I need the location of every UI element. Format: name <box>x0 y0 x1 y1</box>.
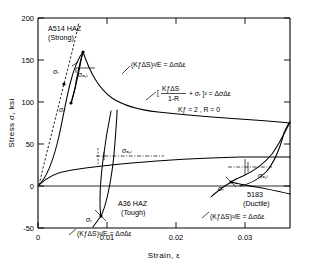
a514-label-line1: A514 HAZ <box>48 24 82 33</box>
y-tick-label-0: 0 <box>30 182 34 191</box>
modified-neuber-params: Kƒ = 2 , R = 0 <box>178 106 220 114</box>
s5183-label-line2: (Ductile) <box>243 199 270 208</box>
sigma-r-upper-label: σᵣ <box>53 68 59 75</box>
modified-neuber-denominator: 1-R <box>168 95 179 102</box>
s5183-sigma-a-i-label: σₐ,ᵢ <box>258 172 268 179</box>
a36-label-line2: (Tough) <box>121 208 145 217</box>
a36-sigma-r-label: σᵣ <box>86 216 92 223</box>
s5183-sigma-r-label: σᵣ <box>218 185 224 192</box>
modified-neuber-open: [ <box>157 89 159 97</box>
y-tick-label-minus50: -50 <box>23 224 34 233</box>
a36-label-line1: A36 HAZ <box>118 199 148 208</box>
y-tick-label-100: 100 <box>21 98 34 107</box>
y-tick-label-150: 150 <box>21 56 34 65</box>
y-tick-label-50: 50 <box>26 140 34 149</box>
y-tick-label-200: 200 <box>21 14 34 23</box>
s5183-label-line1: 5183 <box>247 190 263 199</box>
sigma-r-lower-label: σᵣ <box>59 106 65 113</box>
x-tick-label-002: 0.02 <box>169 233 184 242</box>
a514-sigma-a-point <box>62 82 65 85</box>
sigma-a-i-mid-label: σₐ,ᵢ <box>122 147 132 154</box>
stress-strain-chart: 200 150 100 50 0 -50 0 0.01 0.02 0.03 St… <box>0 0 322 270</box>
neuber-right-label: (KƒΔS)²/E = ΔσΔε <box>210 213 265 221</box>
y-axis-title: Stress σ, ksi <box>7 98 16 147</box>
x-tick-label-003: 0.03 <box>238 233 253 242</box>
sigma-a-bar-label: σₐ,ᵢ <box>78 71 88 78</box>
modified-neuber-tail: + σᵣ ]² = ΔσΔε <box>189 90 231 98</box>
a514-label-line2: (Strong) <box>48 33 74 42</box>
neuber-left-label: (KƒΔS)²/E = ΔσΔε <box>77 230 132 238</box>
chart-root: 200 150 100 50 0 -50 0 0.01 0.02 0.03 St… <box>0 0 322 270</box>
neuber-top-label: (KƒΔS)²/E = ΔσΔε <box>131 61 186 69</box>
x-tick-label-0: 0 <box>36 233 40 242</box>
x-axis-title: Strain, ε <box>148 251 181 260</box>
a514-sigma-r-point <box>69 101 72 104</box>
modified-neuber-numerator: KƒΔS <box>162 85 180 93</box>
